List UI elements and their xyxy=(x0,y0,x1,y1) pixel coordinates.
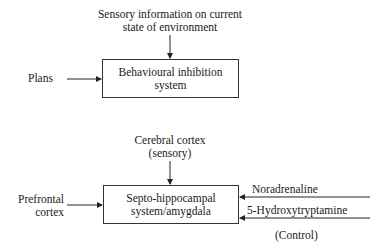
behavioural-inhibition-system-box: Behavioural inhibition system xyxy=(102,59,239,98)
sensory-line-1: Sensory information on current xyxy=(70,8,270,21)
cortex-line-1: Cerebral cortex xyxy=(110,134,230,147)
5-hydroxytryptamine-label: 5-Hydroxytryptamine xyxy=(247,204,347,217)
prefrontal-line-1: Prefrontal xyxy=(8,193,64,206)
cortex-line-2: (sensory) xyxy=(110,147,230,160)
shs-line-1: Septo-hippocampal xyxy=(126,192,215,205)
plans-label: Plans xyxy=(28,72,53,85)
septo-hippocampal-system-box: Septo-hippocampal system/amygdala xyxy=(103,185,239,224)
sensory-information-label: Sensory information on current state of … xyxy=(70,8,270,34)
shs-line-2: system/amygdala xyxy=(126,205,215,218)
prefrontal-cortex-label: Prefrontal cortex xyxy=(8,193,64,219)
sensory-line-2: state of environment xyxy=(70,21,270,34)
bis-line-1: Behavioural inhibition xyxy=(119,66,223,79)
noradrenaline-label: Noradrenaline xyxy=(252,183,318,196)
prefrontal-line-2: cortex xyxy=(8,206,64,219)
control-caption: (Control) xyxy=(275,229,318,242)
bis-line-2: system xyxy=(119,79,223,92)
cerebral-cortex-label: Cerebral cortex (sensory) xyxy=(110,134,230,160)
